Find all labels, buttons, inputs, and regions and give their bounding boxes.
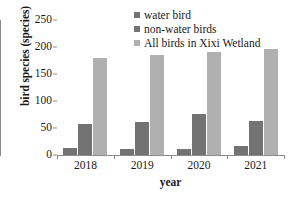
x-axis-title: year xyxy=(57,176,284,188)
y-axis-title: bird species (species) xyxy=(19,0,31,126)
x-tick-label: 2018 xyxy=(57,159,113,171)
bar xyxy=(249,121,263,155)
bar xyxy=(192,114,206,155)
bar xyxy=(234,146,248,155)
legend-swatch-icon xyxy=(134,26,140,32)
bar xyxy=(78,124,92,155)
bar-chart: bird species (species) 050100150200250 2… xyxy=(0,0,294,198)
bar xyxy=(120,149,134,155)
x-tick-label: 2019 xyxy=(114,159,170,171)
legend-label: All birds in Xixi Wetland xyxy=(144,36,260,50)
y-tick-label: 100 xyxy=(35,95,52,107)
bar xyxy=(177,149,191,155)
y-tick-label: 150 xyxy=(35,68,52,80)
legend-item-all-birds: All birds in Xixi Wetland xyxy=(134,36,260,50)
bar xyxy=(150,55,164,155)
bar xyxy=(207,52,221,155)
legend-swatch-icon xyxy=(134,12,140,18)
y-tick-label: 250 xyxy=(35,14,52,26)
bar xyxy=(63,148,77,155)
legend-item-non-water-birds: non-water birds xyxy=(134,22,260,36)
bar xyxy=(93,58,107,155)
x-tick-label: 2021 xyxy=(228,159,284,171)
x-tick-label: 2020 xyxy=(171,159,227,171)
legend-label: water bird xyxy=(144,8,191,22)
legend-item-water-bird: water bird xyxy=(134,8,260,22)
bar xyxy=(264,49,278,155)
legend-label: non-water birds xyxy=(144,22,217,36)
chart-legend: water bird non-water birds All birds in … xyxy=(134,8,260,50)
bar-group xyxy=(57,20,114,155)
y-tick-label: 50 xyxy=(41,122,53,134)
y-tick-label: 0 xyxy=(46,149,52,161)
x-tick-mark xyxy=(284,155,285,159)
y-tick-label: 200 xyxy=(35,41,52,53)
legend-swatch-icon xyxy=(134,40,140,46)
y-axis-line xyxy=(0,20,1,156)
bar xyxy=(135,122,149,155)
